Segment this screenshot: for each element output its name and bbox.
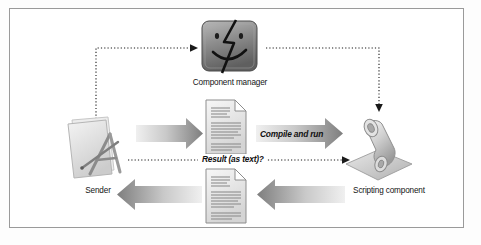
text-document-icon [204,168,248,224]
text-document-icon [204,99,248,155]
label-result-as-text: Result (as text)? [200,154,266,164]
node-sender[interactable] [62,112,134,184]
scroll-on-platform-icon [342,112,416,184]
diagram-figure: Component manager Sender [0,0,481,245]
caption-sender: Sender [58,186,138,195]
caption-component-manager: Component manager [166,78,294,87]
mac-finder-face-icon [196,19,263,75]
node-component-manager[interactable] [196,19,263,75]
document-with-ruler-pencil-icon [62,112,134,184]
node-script-text-document[interactable] [204,99,248,155]
label-compile-and-run: Compile and run [260,129,323,139]
node-result-text-document[interactable] [204,168,248,224]
caption-scripting-component: Scripting component [330,186,448,195]
node-scripting-component[interactable] [342,112,416,184]
